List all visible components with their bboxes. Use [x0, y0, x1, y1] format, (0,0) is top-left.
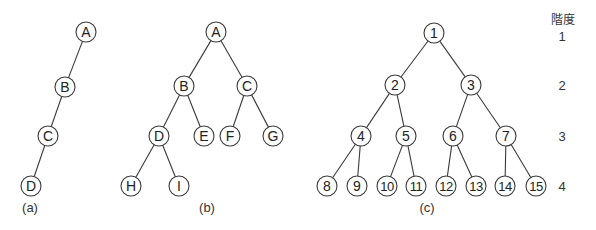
tree-b-node-G: G [263, 126, 283, 146]
tree-b-edge-D-H [136, 145, 154, 178]
tree-c-node-10: 10 [377, 176, 397, 196]
level-4: 4 [558, 179, 565, 194]
tree-a-node-D: D [21, 176, 41, 196]
tree-b-edge-A-B [189, 41, 211, 78]
node-label: A [81, 24, 91, 40]
node-label: D [26, 178, 36, 194]
tree-c-edge-5-11 [408, 146, 414, 176]
edges-layer [34, 41, 531, 178]
node-label: 3 [467, 77, 475, 93]
node-label: 4 [357, 128, 365, 144]
tree-c-edge-5-10 [391, 145, 403, 176]
tree-a-node-B: B [55, 77, 75, 97]
node-label: H [126, 178, 136, 194]
node-label: 2 [391, 77, 399, 93]
node-label: D [154, 128, 164, 144]
tree-c-edge-1-3 [440, 41, 465, 77]
node-label: 10 [380, 179, 394, 194]
tree-c-node-13: 13 [466, 176, 486, 196]
node-label: B [60, 79, 69, 95]
tree-c-node-12: 12 [436, 176, 456, 196]
tree-c-edge-4-9 [358, 146, 360, 176]
node-label: 9 [353, 178, 361, 194]
node-label: 5 [402, 128, 410, 144]
tree-b-node-H: H [121, 176, 141, 196]
level-2: 2 [558, 78, 565, 93]
level-header: 階度 [551, 12, 575, 27]
node-label: 8 [323, 178, 331, 194]
tree-c-node-1: 1 [424, 23, 444, 43]
captions-layer: (a) (b) (c) [22, 200, 435, 215]
node-label: A [211, 24, 221, 40]
tree-c-edge-2-5 [397, 95, 404, 126]
tree-c-edge-7-14 [505, 146, 506, 176]
tree-c-edge-3-6 [456, 94, 467, 126]
node-label: I [177, 178, 181, 194]
tree-b-node-I: I [169, 176, 189, 196]
tree-c-node-8: 8 [317, 176, 337, 196]
tree-c-node-7: 7 [496, 126, 516, 146]
tree-c-edge-7-15 [511, 145, 531, 178]
tree-c-node-3: 3 [461, 75, 481, 95]
node-label: C [242, 78, 252, 94]
tree-a-edge-B-C [51, 96, 61, 126]
node-label: 15 [529, 179, 543, 194]
tree-b-edge-A-C [221, 41, 242, 78]
tree-b-node-A: A [206, 22, 226, 42]
node-label: 13 [469, 179, 483, 194]
tree-c-edge-2-4 [367, 93, 390, 127]
tree-c-edge-6-12 [447, 146, 451, 176]
node-label: F [226, 128, 235, 144]
node-label: E [199, 128, 208, 144]
level-column: 階度 1 2 3 4 [551, 12, 575, 194]
node-label: 12 [439, 179, 453, 194]
tree-c-edge-3-7 [477, 93, 501, 128]
tree-a-edge-C-D [34, 145, 45, 176]
tree-a-node-C: C [38, 126, 58, 146]
tree-c-edge-6-13 [457, 145, 472, 177]
nodes-layer: ABCDABCDEFGHI123456789101112131415 [21, 22, 546, 196]
level-3: 3 [558, 129, 565, 144]
tree-b-node-E: E [194, 126, 214, 146]
binary-tree-diagram: ABCDABCDEFGHI123456789101112131415 (a) (… [0, 0, 596, 230]
node-label: G [268, 128, 279, 144]
tree-c-edge-4-8 [333, 144, 356, 177]
node-label: 1 [430, 25, 438, 41]
node-label: 6 [449, 128, 457, 144]
tree-c-edge-1-2 [401, 41, 428, 77]
node-label: B [179, 78, 188, 94]
tree-c-node-4: 4 [351, 126, 371, 146]
tree-b-node-D: D [149, 126, 169, 146]
node-label: 7 [502, 128, 510, 144]
tree-b-edge-D-I [163, 145, 176, 176]
tree-b-node-F: F [220, 126, 240, 146]
tree-b-edge-C-G [252, 95, 269, 127]
tree-c-node-15: 15 [526, 176, 546, 196]
node-label: 14 [498, 179, 512, 194]
tree-a-caption: (a) [22, 200, 38, 215]
tree-c-node-5: 5 [396, 126, 416, 146]
tree-c-node-2: 2 [385, 75, 405, 95]
node-label: C [43, 128, 53, 144]
tree-b-node-B: B [174, 76, 194, 96]
tree-a-node-A: A [76, 22, 96, 42]
tree-b-node-C: C [237, 76, 257, 96]
tree-c-node-11: 11 [406, 176, 426, 196]
tree-c-node-6: 6 [443, 126, 463, 146]
node-label: 11 [410, 179, 423, 194]
tree-b-caption: (b) [199, 200, 215, 215]
tree-a-edge-A-B [69, 41, 83, 77]
tree-c-caption: (c) [419, 200, 434, 215]
tree-c-node-14: 14 [495, 176, 515, 196]
tree-b-edge-B-D [163, 95, 179, 127]
level-1: 1 [558, 29, 565, 44]
tree-b-edge-B-E [188, 95, 201, 126]
tree-c-node-9: 9 [347, 176, 367, 196]
tree-b-edge-C-F [233, 95, 244, 126]
